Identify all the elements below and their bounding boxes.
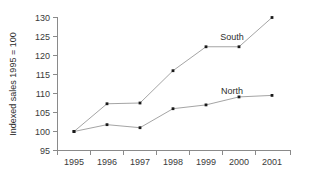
y-tick-label: 95 [40, 146, 50, 156]
x-tick-label: 1995 [64, 157, 84, 167]
line-chart: 130 125 120 115 110 105 100 95 1995 1996… [0, 0, 310, 178]
x-axis-ticks [58, 151, 291, 156]
series-label-south: South [220, 32, 244, 42]
x-tick-label: 1997 [130, 157, 150, 167]
x-tick-label: 2001 [262, 157, 282, 167]
y-tick-label: 105 [35, 108, 50, 118]
y-tick-label: 120 [35, 51, 50, 61]
data-point-marker [172, 107, 175, 110]
data-point-marker [172, 69, 175, 72]
chart-canvas: 130 125 120 115 110 105 100 95 1995 1996… [0, 0, 310, 178]
data-point-marker [139, 126, 142, 129]
series-label-north: North [221, 86, 243, 96]
y-axis-ticks [53, 18, 58, 151]
data-point-marker [73, 130, 76, 133]
data-point-marker [271, 94, 274, 97]
data-point-marker [139, 102, 142, 105]
data-point-marker [205, 45, 208, 48]
data-point-marker [205, 104, 208, 107]
data-point-marker [106, 123, 109, 126]
y-tick-label: 115 [36, 70, 50, 80]
data-point-marker [106, 102, 109, 105]
y-axis-title: Indexed sales 1995 = 100 [8, 32, 18, 135]
data-point-marker [271, 16, 274, 19]
y-tick-label: 125 [35, 32, 50, 42]
y-tick-label: 110 [36, 89, 50, 99]
data-point-marker [238, 45, 241, 48]
x-tick-label: 1998 [163, 157, 183, 167]
y-tick-label: 100 [35, 127, 50, 137]
x-tick-label: 1999 [196, 157, 216, 167]
x-tick-label: 1996 [97, 157, 117, 167]
x-tick-label: 2000 [229, 157, 249, 167]
y-tick-label: 130 [35, 13, 50, 23]
series-line-north [74, 95, 272, 131]
